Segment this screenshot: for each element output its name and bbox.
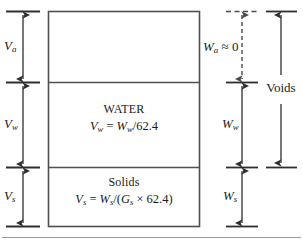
volume-air-symbol: V [4, 38, 12, 53]
weight-water-subscript: w [233, 122, 239, 132]
weight-water-label: Ww [222, 117, 239, 133]
volume-solids-label: Vs [4, 189, 15, 205]
soil-phase-diagram: Va Vw Vs WATER Vw = Ww/62.4 Solids Vs = … [0, 0, 303, 244]
solids-volume-formula: Vs = Ws/(Gs × 62.4) [49, 192, 199, 208]
weight-water-symbol: W [222, 116, 233, 131]
volume-solids-subscript: s [12, 194, 15, 204]
weight-solids-symbol: W [223, 188, 234, 203]
voids-label: Voids [256, 81, 303, 96]
volume-solids-symbol: V [4, 188, 12, 203]
volume-air-subscript: a [12, 44, 16, 54]
weight-air-symbol: W [203, 39, 214, 54]
solids-formula-rhs-symbol: W [100, 192, 110, 206]
volume-water-label: Vw [4, 117, 18, 133]
volume-air-label: Va [4, 39, 16, 55]
weight-air-relation: ≈ 0 [218, 39, 238, 54]
solids-formula-times-tail: × 62.4) [133, 192, 172, 206]
volume-water-symbol: V [4, 116, 12, 131]
water-formula-rhs-symbol: W [117, 119, 127, 133]
solids-formula-mid: /( [113, 192, 121, 206]
water-formula-lhs-symbol: V [90, 119, 98, 133]
solids-formula-lhs-symbol: V [75, 192, 83, 206]
solids-phase-name: Solids [49, 176, 199, 190]
water-volume-formula: Vw = Ww/62.4 [49, 119, 199, 135]
solids-formula-gs-symbol: G [121, 192, 130, 206]
weight-solids-label: Ws [223, 189, 237, 205]
water-formula-equals: = [103, 119, 116, 133]
weight-solids-subscript: s [234, 194, 237, 204]
volume-water-subscript: w [12, 122, 18, 132]
solids-formula-equals: = [86, 192, 99, 206]
weight-air-label: Wa ≈ 0 [203, 40, 238, 56]
water-phase-name: WATER [49, 103, 199, 117]
water-formula-tail: /62.4 [133, 119, 158, 133]
